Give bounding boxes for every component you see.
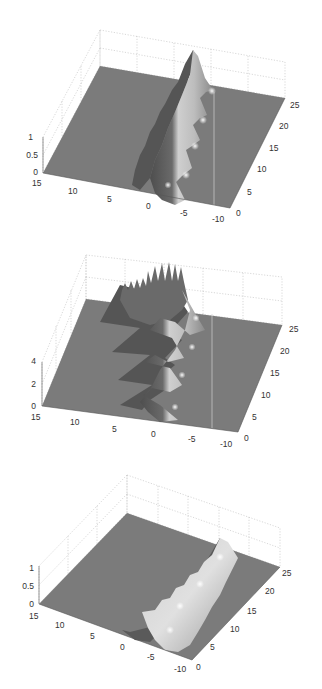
svg-text:15: 15	[247, 606, 257, 616]
svg-text:0: 0	[151, 429, 156, 439]
svg-text:-5: -5	[188, 434, 196, 444]
svg-text:5: 5	[210, 642, 215, 652]
svg-text:10: 10	[230, 624, 240, 634]
svg-text:25: 25	[289, 324, 299, 334]
svg-text:2: 2	[31, 379, 36, 389]
svg-text:5: 5	[107, 194, 112, 204]
svg-text:0: 0	[31, 401, 36, 411]
svg-text:0: 0	[196, 662, 201, 672]
svg-text:15: 15	[270, 368, 280, 378]
z-ticks-3: 1 0.5 0	[22, 563, 34, 609]
svg-text:0: 0	[120, 642, 125, 652]
z-ticks-2: 4 2 0	[31, 356, 36, 411]
svg-text:15: 15	[29, 611, 39, 621]
svg-text:5: 5	[247, 187, 252, 197]
svg-text:15: 15	[269, 143, 279, 153]
svg-text:1: 1	[29, 563, 34, 573]
svg-text:-10: -10	[220, 439, 233, 449]
svg-text:15: 15	[32, 178, 42, 188]
svg-text:5: 5	[252, 412, 257, 422]
svg-text:-5: -5	[147, 652, 155, 662]
svg-text:-10: -10	[174, 664, 187, 674]
surface-plot-3: 1 0.5 0 15 10 5 0 -5 -10 0 5 10 15 20 25	[22, 475, 292, 674]
svg-text:15: 15	[31, 412, 41, 422]
svg-text:25: 25	[290, 100, 300, 110]
svg-text:10: 10	[70, 417, 80, 427]
svg-text:-10: -10	[212, 214, 225, 224]
svg-text:1: 1	[28, 132, 33, 142]
svg-text:0.5: 0.5	[26, 150, 38, 160]
svg-text:25: 25	[282, 568, 292, 578]
svg-text:20: 20	[280, 346, 290, 356]
svg-text:10: 10	[68, 186, 78, 196]
svg-text:10: 10	[257, 164, 267, 174]
svg-text:20: 20	[279, 121, 289, 131]
svg-text:0: 0	[29, 599, 34, 609]
z-ticks-1: 1 0.5 0	[26, 132, 38, 177]
svg-text:-5: -5	[180, 208, 188, 218]
svg-text:10: 10	[55, 620, 65, 630]
svg-text:0: 0	[33, 167, 38, 177]
svg-text:20: 20	[265, 586, 275, 596]
svg-text:0: 0	[146, 201, 151, 211]
svg-text:5: 5	[90, 631, 95, 641]
surface-plot-2: 4 2 0 15 10 5 0 -5 -10 0 5 10 15 20 25	[31, 255, 299, 449]
svg-text:5: 5	[112, 424, 117, 434]
svg-text:0: 0	[236, 208, 241, 218]
svg-text:0: 0	[244, 433, 249, 443]
surface-plot-1: 1 0.5 0 15 10 5 0 -5 -10 0 5 10 15 20 25	[26, 30, 300, 224]
svg-text:10: 10	[261, 390, 271, 400]
svg-text:4: 4	[31, 356, 36, 366]
svg-text:0.5: 0.5	[22, 581, 34, 591]
figure-canvas: 1 0.5 0 15 10 5 0 -5 -10 0 5 10 15 20 25	[0, 0, 322, 689]
